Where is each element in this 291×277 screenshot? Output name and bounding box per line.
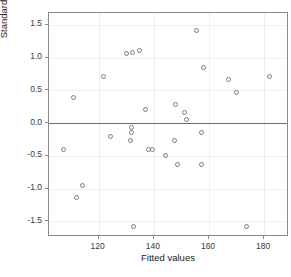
data-point [173,102,178,107]
data-point [199,130,204,135]
data-point [129,130,134,135]
data-point [172,138,177,143]
data-point [143,107,148,112]
data-point [244,224,249,229]
data-point [163,153,168,158]
data-point [226,77,231,82]
data-point [130,50,135,55]
gridline-horizontal-4 [49,90,287,91]
data-point [182,110,187,115]
y-tick-label: 1.0 [2,52,42,61]
data-point [101,74,106,79]
y-tick-label: -1.0 [2,183,42,192]
data-point [267,74,272,79]
data-point [108,134,113,139]
y-tick-label: 0.0 [2,118,42,127]
x-tick-label: 120 [91,242,105,251]
data-point [131,224,136,229]
zero-reference-line [49,123,287,124]
data-point [128,138,133,143]
data-point [61,147,66,152]
data-point [199,162,204,167]
plot-frame [48,12,288,236]
gridline-horizontal-2 [49,156,287,157]
data-point [201,65,206,70]
y-tick-label: 0.5 [2,85,42,94]
x-tick-mark [98,236,99,239]
plot-area [49,13,287,235]
x-tick-mark [208,236,209,239]
y-tick-label: -1.5 [2,216,42,225]
data-point [234,90,239,95]
residual-scatter-plot: Standardized residuals -1.5-1.0-0.50.00.… [0,0,291,277]
x-tick-mark [153,236,154,239]
data-point [194,28,199,33]
gridline-horizontal-1 [49,189,287,190]
x-tick-label: 160 [201,242,215,251]
gridline-horizontal-5 [49,58,287,59]
data-point [71,95,76,100]
gridline-horizontal-6 [49,25,287,26]
y-tick-label: -0.5 [2,150,42,159]
data-point [137,48,142,53]
x-axis-label: Fitted values [48,252,288,263]
gridline-horizontal-0 [49,221,287,222]
data-point [74,195,79,200]
x-tick-label: 180 [256,242,270,251]
data-point [175,162,180,167]
x-tick-mark [263,236,264,239]
data-point [124,51,129,56]
data-point [184,117,189,122]
x-tick-label: 140 [146,242,160,251]
y-tick-label: 1.5 [2,19,42,28]
